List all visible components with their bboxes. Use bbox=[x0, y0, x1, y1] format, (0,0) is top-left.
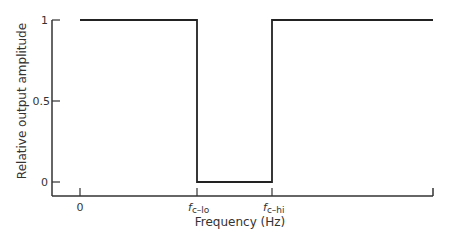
chart: 1 0.5 0 0 fc–lo fc–hi Frequency (Hz) Rel… bbox=[0, 0, 455, 236]
y-tick-label-0: 0 bbox=[41, 176, 48, 189]
y-axis-label: Relative output amplitude bbox=[15, 23, 29, 179]
x-tick-label-fc-lo: fc–lo bbox=[188, 201, 210, 215]
x-tick-label-fc-hi: fc–hi bbox=[263, 201, 285, 215]
y-tick-label-0.5: 0.5 bbox=[33, 95, 51, 108]
y-tick-label-1: 1 bbox=[41, 14, 48, 27]
response-curve bbox=[80, 20, 433, 182]
x-tick-label-0: 0 bbox=[77, 201, 84, 214]
fc-lo-sub: c–lo bbox=[192, 205, 210, 215]
fc-hi-sub: c–hi bbox=[267, 205, 285, 215]
x-axis-label: Frequency (Hz) bbox=[195, 215, 286, 229]
